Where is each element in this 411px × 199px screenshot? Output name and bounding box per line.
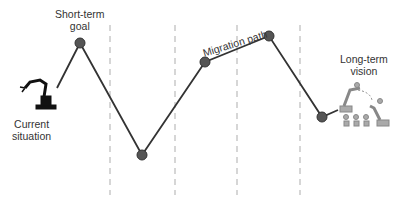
node-short-term-goal (75, 38, 85, 48)
migration-path-line (57, 36, 338, 155)
milestone-nodes (75, 31, 327, 160)
node-end (317, 112, 327, 122)
short-term-goal-label: Short-term goal (55, 8, 105, 32)
long-term-vision-label: Long-term vision (340, 53, 388, 77)
connected-robots-icon (340, 83, 389, 127)
migration-path-label: Migration path (201, 28, 268, 59)
node-trough (137, 150, 147, 160)
robot-arm-icon (20, 80, 56, 109)
current-situation-label: Current situation (12, 118, 51, 142)
